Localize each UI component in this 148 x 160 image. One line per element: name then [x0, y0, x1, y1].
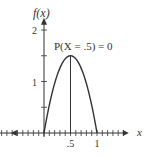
x-tick-label: .5	[67, 138, 75, 149]
density-chart: .5112 f(x) x P(X = .5) = 0	[0, 0, 148, 160]
x-axis-label: x	[136, 126, 142, 138]
x-tick-label: 1	[95, 138, 100, 149]
x-axis-arrow-left	[11, 130, 17, 136]
probability-annotation: P(X = .5) = 0	[54, 40, 113, 53]
axes	[0, 18, 129, 137]
marks	[44, 56, 97, 133]
y-tick-label: 1	[32, 77, 37, 88]
y-axis-label: f(x)	[33, 6, 50, 20]
y-tick-label: 2	[32, 25, 37, 36]
